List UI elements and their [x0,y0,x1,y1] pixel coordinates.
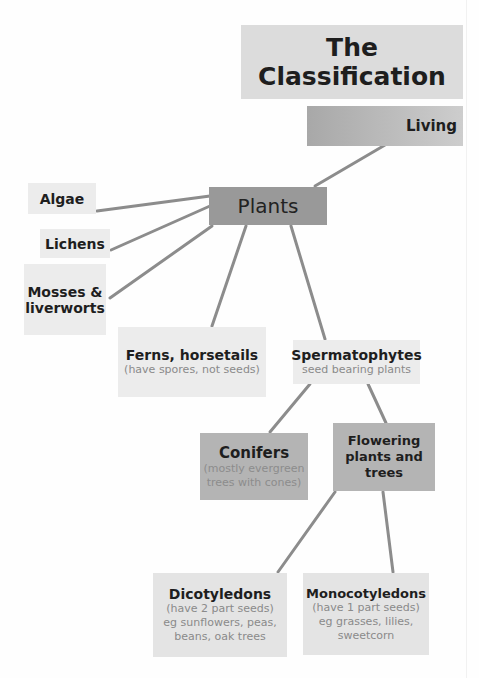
node-living: Living [307,106,463,146]
node-flowering: Flowering plants and trees [333,423,435,491]
title-box: The Classification [241,25,463,99]
node-conifers-label: Conifers [219,444,289,462]
node-ferns: Ferns, horsetails (have spores, not seed… [118,327,266,397]
diagram-title: The Classification [241,33,463,91]
line-flowering-dicots [278,492,335,572]
node-spermatophytes: Spermatophytes seed bearing plants [293,340,420,384]
node-dicots-sub2: eg sunflowers, peas, [163,616,276,630]
node-flowering-label3: trees [365,465,403,481]
node-flowering-label2: plants and [345,449,423,465]
line-sperm-flowering [368,384,386,423]
node-monocots-sub3: sweetcorn [338,629,395,643]
line-living-plants [315,145,385,186]
line-plants-spermatophytes [291,226,325,339]
line-plants-algae [97,196,210,211]
node-algae-label: Algae [40,191,85,207]
node-monocots: Monocotyledons (have 1 part seeds) eg gr… [303,573,429,655]
node-mosses: Mosses & liverworts [24,264,106,335]
node-monocots-sub1: (have 1 part seeds) [312,601,420,615]
node-monocots-label: Monocotyledons [306,586,426,601]
node-dicots: Dicotyledons (have 2 part seeds) eg sunf… [153,573,287,657]
line-plants-mosses [110,226,212,298]
node-conifers: Conifers (mostly evergreen trees with co… [200,433,308,500]
node-living-label: Living [406,117,457,135]
node-dicots-sub3: beans, oak trees [174,630,265,644]
node-ferns-sub: (have spores, not seeds) [124,363,260,377]
node-plants: Plants [209,187,327,225]
node-lichens-label: Lichens [45,236,105,252]
node-conifers-sub1: (mostly evergreen [204,462,305,476]
line-sperm-conifers [270,384,310,432]
node-mosses-label2: liverworts [25,300,105,316]
node-flowering-label1: Flowering [348,433,421,449]
node-lichens: Lichens [40,229,110,258]
node-plants-label: Plants [238,194,299,218]
node-conifers-sub2: trees with cones) [207,476,302,490]
node-dicots-sub1: (have 2 part seeds) [166,602,274,616]
node-mosses-label: Mosses & [27,284,102,300]
node-dicots-label: Dicotyledons [169,586,271,602]
node-sperm-label: Spermatophytes [291,347,421,363]
node-ferns-label: Ferns, horsetails [126,347,258,363]
line-flowering-monocots [383,492,393,572]
node-sperm-sub: seed bearing plants [302,363,411,377]
line-plants-lichens [111,206,210,250]
node-monocots-sub2: eg grasses, lilies, [319,615,414,629]
line-plants-ferns [212,226,246,326]
node-algae: Algae [28,183,96,214]
